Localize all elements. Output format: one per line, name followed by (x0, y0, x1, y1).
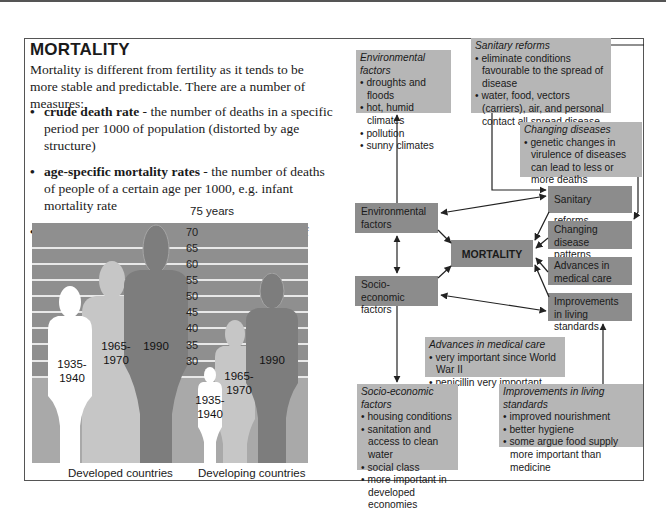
socio-economic-factors-box: Socio-economic factors • housing conditi… (357, 384, 458, 470)
bullet-icon: • (30, 103, 35, 120)
box-item: • better hygiene (503, 424, 639, 437)
y-tick: 65 (186, 242, 198, 254)
improvements-living-standards-box: Improvements in living standards • impro… (499, 384, 643, 447)
top-rule (0, 0, 666, 2)
box-item: • some argue food supply more important … (503, 436, 639, 474)
changing-diseases-box: Changing diseases • genetic changes in v… (520, 122, 642, 177)
figure-label: 1965- 1970 (94, 339, 138, 367)
y-tick: 35 (186, 339, 198, 351)
y-tick: 50 (186, 290, 198, 302)
y-axis-label: 75 years (190, 205, 234, 217)
bullet-icon: • (30, 163, 35, 180)
node-improvements-living-standards: Improvements in living standards (548, 293, 632, 321)
figure-label: 1965- 1970 (217, 369, 261, 397)
page-title: MORTALITY (30, 40, 130, 60)
box-item: • more important in developed economies (361, 474, 454, 512)
environmental-factors-box: Environmental factors • droughts and flo… (356, 50, 451, 113)
y-tick: 45 (186, 306, 198, 318)
box-title: Improvements in living standards (503, 386, 639, 411)
figure-developing-1990 (246, 273, 298, 463)
measure-term: crude death rate (44, 104, 139, 119)
y-tick: 55 (186, 274, 198, 286)
node-mortality: MORTALITY (451, 240, 533, 267)
box-title: Environmental factors (360, 52, 447, 77)
box-item: • genetic changes in virulence of diseas… (524, 137, 638, 187)
figure-label: 1990 (252, 353, 292, 367)
box-item: • improved nourishment (503, 411, 639, 424)
measure-item: •crude death rate - the number of deaths… (30, 103, 335, 154)
y-tick: 60 (186, 258, 198, 270)
box-item: • housing conditions (361, 411, 454, 424)
box-item: • sunny climates (360, 140, 447, 153)
x-label-developing: Developing countries (198, 467, 305, 479)
box-item: • eliminate conditions favourable to the… (475, 53, 607, 91)
sanitary-reforms-box: Sanitary reforms • eliminate conditions … (471, 38, 611, 113)
box-item: • droughts and floods (360, 77, 447, 102)
box-item: • pollution (360, 128, 447, 141)
figure-label: 1935- 1940 (50, 357, 94, 385)
y-tick: 40 (186, 322, 198, 334)
box-item: • sanitation and access to clean water (361, 424, 454, 462)
box-item: • very important since World War II (429, 352, 561, 377)
x-label-developed: Developed countries (68, 467, 173, 479)
measure-term: age-specific mortality rates (44, 164, 200, 179)
box-title: Sanitary reforms (475, 40, 607, 53)
node-changing-disease-patterns: Changing disease patterns (548, 221, 632, 249)
life-expectancy-chart: 75 years 70 65 60 55 50 45 40 35 30 (32, 205, 308, 463)
y-tick: 30 (186, 355, 198, 367)
box-item: • social class (361, 462, 454, 475)
y-tick: 70 (186, 226, 198, 238)
node-environmental-factors: Environmental factors (355, 203, 438, 233)
box-title: Socio-economic factors (361, 386, 454, 411)
figure-label: 1935- 1940 (192, 393, 228, 421)
advances-medical-care-box: Advances in medical care • very importan… (425, 337, 565, 377)
node-advances-medical-care: Advances in medical care (548, 257, 632, 285)
chart-plot-area: 70 65 60 55 50 45 40 35 30 (32, 223, 308, 463)
box-title: Changing diseases (524, 124, 638, 137)
box-item: • hot, humid climates (360, 102, 447, 127)
node-socio-economic-factors: Socio-economic factors (355, 276, 438, 306)
box-title: Advances in medical care (429, 339, 561, 352)
node-sanitary-reforms: Sanitary reforms (548, 186, 632, 213)
figure-label: 1990 (136, 339, 176, 353)
